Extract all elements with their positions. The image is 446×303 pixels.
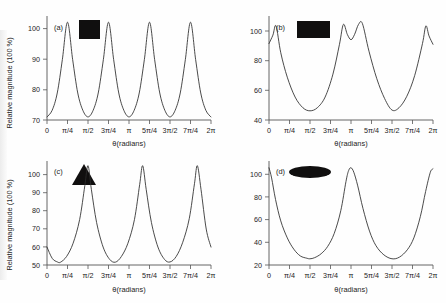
panel-a-tag: (a) — [54, 23, 63, 32]
panel-c-xtick-5pi4: 5π/4 — [142, 271, 157, 280]
panel-c-xtick-7pi4: 7π/4 — [183, 271, 198, 280]
panel-b-xtick-2pi: 2π — [429, 126, 438, 135]
panel-d-ytick-100: 100 — [250, 170, 262, 179]
panel-c-ytick-100: 100 — [28, 170, 40, 179]
panel-d-xtick-pi2: π/2 — [305, 271, 316, 280]
panel-c: Relative magnitude (100 %) 100 90 80 70 … — [0, 153, 224, 298]
panel-a-xtick-pi4: π/4 — [62, 126, 73, 135]
panel-c-ytick-60: 60 — [32, 243, 40, 252]
panel-d-xlabel: θ(radians) — [334, 285, 367, 294]
panel-b-xtick-3pi2: 3π/2 — [385, 126, 400, 135]
panel-b-ytick-100: 100 — [250, 27, 262, 36]
panel-c-axes — [47, 161, 211, 265]
panel-c-ylabel: Relative magnitude (100 %) — [5, 179, 14, 270]
panel-c-xtick-pi4: π/4 — [62, 271, 73, 280]
panel-a-xtick-0: 0 — [45, 126, 49, 135]
panel-a-ytick-70: 70 — [32, 116, 40, 125]
panel-c-ytick-90: 90 — [32, 188, 40, 197]
panel-b-plot: 100 80 60 40 0 π/4 π/2 3π/4 π 5π/ — [222, 8, 446, 150]
panel-c-xtick-3pi2: 3π/2 — [163, 271, 178, 280]
panel-c-yticks: 100 90 80 70 60 50 — [28, 170, 47, 269]
panel-c-plot: Relative magnitude (100 %) 100 90 80 70 … — [0, 153, 224, 298]
panel-d-xtick-7pi4: 7π/4 — [405, 271, 420, 280]
figure-canvas: Relative magnitude (100 %) 100 90 80 70 — [0, 0, 446, 303]
panel-a-xtick-2pi: 2π — [207, 126, 216, 135]
panel-b-xtick-3pi4: 3π/4 — [323, 126, 338, 135]
panel-c-xtick-2pi: 2π — [207, 271, 216, 280]
panel-d: 100 80 60 40 20 0 π/4 π/2 3π/4 π — [222, 153, 446, 298]
panel-a-xtick-3pi4: 3π/4 — [101, 126, 116, 135]
panel-a-xtick-pi2: π/2 — [83, 126, 94, 135]
panel-d-xtick-pi4: π/4 — [284, 271, 295, 280]
panel-d-tag: (d) — [276, 167, 285, 176]
panel-a-axes — [47, 16, 211, 120]
panel-c-xticks: 0 π/4 π/2 3π/4 π 5π/4 3π/2 7π/4 2π — [45, 265, 216, 280]
panel-b-ytick-60: 60 — [254, 86, 262, 95]
panel-d-curve — [269, 168, 433, 259]
panel-a-ytick-90: 90 — [32, 55, 40, 64]
panel-d-ytick-20: 20 — [254, 261, 262, 270]
panel-a-ylabel: Relative magnitude (100 %) — [5, 37, 14, 128]
panel-c-xtick-0: 0 — [45, 271, 49, 280]
panel-a-xlabel: θ(radians) — [112, 139, 145, 148]
panel-b-yticks: 100 80 60 40 — [250, 27, 269, 125]
panel-d-xtick-pi: π — [349, 271, 354, 280]
panel-a-ytick-80: 80 — [32, 85, 40, 94]
panel-c-xtick-pi2: π/2 — [83, 271, 94, 280]
panel-c-ytick-80: 80 — [32, 206, 40, 215]
inset-triangle-icon — [72, 164, 96, 185]
panel-a-xtick-5pi4: 5π/4 — [142, 126, 157, 135]
panel-d-xtick-0: 0 — [267, 271, 271, 280]
panel-a-yticks: 100 90 80 70 — [28, 24, 47, 124]
panel-b-ytick-80: 80 — [254, 56, 262, 65]
panel-c-xtick-pi: π — [127, 271, 132, 280]
panel-b-xtick-0: 0 — [267, 126, 271, 135]
panel-d-ytick-80: 80 — [254, 193, 262, 202]
panel-a-xtick-7pi4: 7π/4 — [183, 126, 198, 135]
panel-d-xtick-3pi4: 3π/4 — [323, 271, 338, 280]
panel-b-xtick-7pi4: 7π/4 — [405, 126, 420, 135]
panel-a: Relative magnitude (100 %) 100 90 80 70 — [0, 8, 224, 150]
panel-d-yticks: 100 80 60 40 20 — [250, 170, 269, 270]
panel-a-curve — [47, 22, 211, 117]
panel-d-ytick-60: 60 — [254, 215, 262, 224]
panel-b-xtick-pi4: π/4 — [284, 126, 295, 135]
panel-c-xlabel: θ(radians) — [112, 285, 145, 294]
panel-c-ytick-50: 50 — [32, 261, 40, 270]
panel-b-axes — [269, 16, 433, 120]
panel-c-ytick-70: 70 — [32, 224, 40, 233]
panel-b-xlabel: θ(radians) — [334, 139, 367, 148]
panel-c-curve — [47, 166, 211, 263]
panel-a-xticks: 0 π/4 π/2 3π/4 π 5π/4 3π/2 7π/4 2π — [45, 120, 216, 135]
panel-b-xtick-pi2: π/2 — [305, 126, 316, 135]
panel-a-ytick-100: 100 — [28, 24, 40, 33]
panel-c-tag: (c) — [54, 167, 63, 176]
panel-a-xtick-pi: π — [127, 126, 132, 135]
panel-b-xticks: 0 π/4 π/2 3π/4 π 5π/4 3π/2 7π/4 2π — [267, 120, 438, 135]
panel-d-xtick-3pi2: 3π/2 — [385, 271, 400, 280]
panel-d-xtick-5pi4: 5π/4 — [364, 271, 379, 280]
inset-rectangle-icon — [297, 21, 330, 38]
inset-square-icon — [79, 20, 100, 39]
panel-b-xtick-pi: π — [349, 126, 354, 135]
panel-a-plot: Relative magnitude (100 %) 100 90 80 70 — [0, 8, 224, 150]
panel-a-xtick-3pi2: 3π/2 — [163, 126, 178, 135]
panel-d-xticks: 0 π/4 π/2 3π/4 π 5π/4 3π/2 7π/4 2π — [267, 265, 438, 280]
inset-ellipse-icon — [289, 166, 331, 178]
panel-b-ytick-40: 40 — [254, 116, 262, 125]
panel-b-xtick-5pi4: 5π/4 — [364, 126, 379, 135]
panel-b-curve — [269, 21, 433, 110]
panel-b: 100 80 60 40 0 π/4 π/2 3π/4 π 5π/ — [222, 8, 446, 150]
panel-d-plot: 100 80 60 40 20 0 π/4 π/2 3π/4 π — [222, 153, 446, 298]
panel-d-xtick-2pi: 2π — [429, 271, 438, 280]
panel-c-xtick-3pi4: 3π/4 — [101, 271, 116, 280]
panel-d-ytick-40: 40 — [254, 238, 262, 247]
